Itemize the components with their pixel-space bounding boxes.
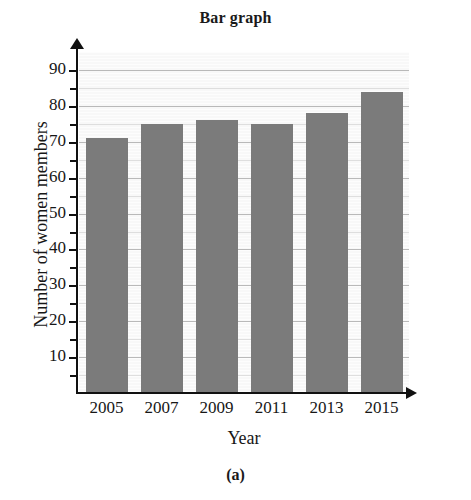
y-tick-minor-25	[70, 303, 78, 305]
gridline-30	[79, 285, 409, 286]
y-tick-label-90: 90	[22, 59, 66, 79]
page-title: Bar graph	[0, 9, 471, 27]
y-axis-line	[76, 46, 78, 394]
x-tick-label-2011: 2011	[241, 398, 302, 418]
y-tick-minor-85	[70, 88, 78, 90]
bar-2005[interactable]	[86, 138, 128, 393]
bar-2007[interactable]	[141, 124, 183, 393]
x-axis-title: Year	[79, 428, 409, 449]
gridline-minor-55	[79, 196, 409, 197]
x-tick-label-2005: 2005	[76, 398, 137, 418]
gridline-40	[79, 249, 409, 250]
bar-2009[interactable]	[196, 120, 238, 393]
gridline-minor-65	[79, 160, 409, 161]
y-tick-minor-75	[70, 124, 78, 126]
y-tick-minor-5	[70, 375, 78, 377]
gridline-70	[79, 142, 409, 143]
gridline-minor-35	[79, 267, 409, 268]
gridline-50	[79, 214, 409, 215]
y-tick-20	[69, 321, 78, 323]
bar-2015[interactable]	[361, 92, 403, 394]
y-tick-50	[69, 214, 78, 216]
y-tick-80	[69, 106, 78, 108]
y-tick-90	[69, 70, 78, 72]
y-tick-10	[69, 357, 78, 359]
gridline-minor-45	[79, 232, 409, 233]
figure-caption: (a)	[0, 466, 471, 484]
bar-2011[interactable]	[251, 124, 293, 393]
y-tick-70	[69, 142, 78, 144]
gridline-60	[79, 178, 409, 179]
bar-graph-figure: Bar graph 102030405060708090 20052007200…	[0, 0, 471, 500]
y-tick-minor-55	[70, 196, 78, 198]
gridline-80	[79, 106, 409, 107]
gridline-minor-75	[79, 124, 409, 125]
y-tick-minor-45	[70, 232, 78, 234]
x-axis-line	[76, 392, 408, 394]
y-tick-40	[69, 249, 78, 251]
gridline-minor-25	[79, 303, 409, 304]
x-tick-label-2009: 2009	[186, 398, 247, 418]
y-axis-title: Number of women members	[31, 80, 52, 370]
y-tick-minor-35	[70, 267, 78, 269]
x-tick-label-2013: 2013	[296, 398, 357, 418]
y-axis-arrow-icon	[70, 38, 84, 49]
y-tick-30	[69, 285, 78, 287]
x-tick-label-2015: 2015	[351, 398, 412, 418]
y-tick-minor-65	[70, 160, 78, 162]
gridline-20	[79, 321, 409, 322]
plot-area	[79, 52, 409, 393]
y-tick-60	[69, 178, 78, 180]
x-tick-label-2007: 2007	[131, 398, 192, 418]
gridline-minor-85	[79, 88, 409, 89]
y-tick-minor-15	[70, 339, 78, 341]
gridline-90	[79, 70, 409, 71]
gridline-minor-15	[79, 339, 409, 340]
gridline-10	[79, 357, 409, 358]
bar-2013[interactable]	[306, 113, 348, 393]
gridline-minor-5	[79, 375, 409, 376]
